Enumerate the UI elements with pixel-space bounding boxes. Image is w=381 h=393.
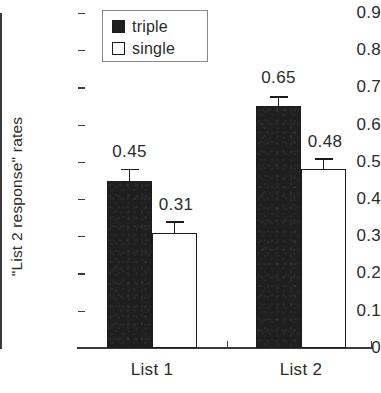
error-bar-list2-single-cap [315, 158, 333, 160]
y-tick-mark-0.8 [78, 50, 85, 51]
legend: triple single [102, 10, 208, 62]
error-bar-list1-triple-stem [129, 169, 131, 181]
y-tick-mark-0.3 [78, 236, 85, 237]
y-tick-mark-0.2 [78, 273, 85, 274]
legend-label-triple: triple [132, 18, 168, 36]
y-tick-mark-0.7 [78, 87, 85, 88]
y-tick-mark-0.6 [78, 125, 85, 126]
bar-list2-single [301, 169, 346, 348]
value-label-list1-triple: 0.45 [112, 142, 146, 162]
x-axis-label-list-1: List 1 [131, 360, 173, 380]
error-bar-list1-single-cap [166, 221, 184, 223]
legend-label-single: single [132, 40, 175, 58]
bar-list1-triple [107, 181, 152, 349]
y-tick-label-0.8: 0.8 [309, 40, 381, 60]
y-tick-mark-0.1 [78, 311, 85, 312]
x-tick-mark-mid [227, 341, 228, 348]
error-bar-list2-triple-cap [270, 96, 288, 98]
value-label-list1-single: 0.31 [159, 195, 193, 215]
y-axis-title: "List 2 response" rates [0, 0, 34, 393]
legend-item-single: single [112, 38, 207, 59]
y-tick-mark-0.4 [78, 199, 85, 200]
y-tick-label-0.9: 0.9 [309, 3, 381, 23]
y-axis-line [0, 13, 2, 349]
legend-swatch-triple-icon [112, 20, 125, 33]
bar-list1-single [152, 233, 197, 348]
error-bar-list1-single-stem [174, 221, 176, 233]
legend-swatch-single-icon [112, 42, 125, 55]
legend-item-triple: triple [112, 16, 207, 37]
y-tick-mark-0.5 [78, 162, 85, 163]
bar-chart: "List 2 response" rates 0.9 0.8 0.7 0.6 … [0, 0, 381, 393]
value-label-list2-triple: 0.65 [261, 68, 295, 88]
x-axis-label-list-2: List 2 [280, 360, 322, 380]
error-bar-list1-triple-cap [121, 169, 139, 171]
y-tick-mark-0.9 [78, 13, 85, 14]
error-bar-list2-single-stem [323, 158, 325, 169]
x-tick-mark-right [371, 341, 372, 348]
value-label-list2-single: 0.48 [308, 132, 342, 152]
bar-list2-triple [256, 106, 301, 348]
y-tick-label-0.7: 0.7 [309, 77, 381, 97]
